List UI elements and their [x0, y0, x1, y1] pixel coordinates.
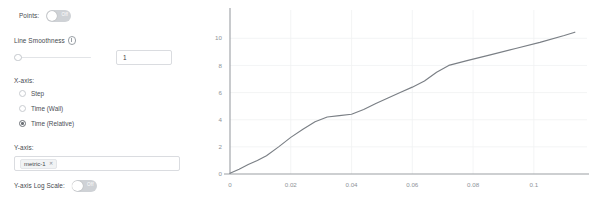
y-axis-label: Y-axis:	[14, 144, 34, 151]
y-log-scale-toggle-knob	[72, 181, 83, 192]
svg-text:0.06: 0.06	[406, 181, 419, 188]
slider-thumb[interactable]	[14, 54, 22, 62]
points-setting-row: Points: Off	[19, 10, 71, 22]
line-smoothness-slider[interactable]	[14, 53, 91, 63]
points-toggle-knob	[47, 11, 58, 22]
radio-time-relative-label: Time (Relative)	[31, 120, 74, 127]
radio-step-label: Step	[31, 90, 44, 97]
radio-step[interactable]	[19, 90, 26, 97]
radio-time-wall[interactable]	[19, 105, 26, 112]
x-axis-option-time-relative[interactable]: Time (Relative)	[19, 120, 74, 127]
line-smoothness-label-row: Line Smoothness	[14, 36, 76, 45]
line-smoothness-label: Line Smoothness	[14, 37, 65, 44]
scalar-chart[interactable]: 0246810 00.020.040.060.080.1	[188, 0, 591, 204]
x-axis-option-step[interactable]: Step	[19, 90, 44, 97]
points-toggle[interactable]: Off	[46, 10, 71, 22]
chart-axes	[224, 8, 589, 174]
chart-gridlines	[230, 10, 587, 174]
chart-y-tick-labels: 0246810	[215, 34, 222, 177]
chart-svg: 0246810 00.020.040.060.080.1	[188, 0, 591, 204]
chart-x-tick-labels: 00.020.040.060.080.1	[228, 181, 538, 188]
x-axis-option-time-wall[interactable]: Time (Wall)	[19, 105, 63, 112]
y-axis-metric-chip-label: metric-1	[24, 161, 46, 167]
svg-text:10: 10	[215, 34, 222, 41]
radio-time-relative[interactable]	[19, 120, 26, 127]
chart-settings-panel: Points: Off Line Smoothness 1 X-axis:	[0, 0, 188, 204]
y-log-scale-row: Y-axis Log Scale: Off	[14, 180, 97, 192]
y-log-scale-toggle[interactable]: Off	[72, 180, 97, 192]
svg-text:8: 8	[219, 62, 223, 69]
svg-text:6: 6	[219, 89, 223, 96]
close-icon[interactable]: ✕	[49, 161, 53, 166]
line-smoothness-input[interactable]: 1	[116, 50, 172, 65]
svg-text:0: 0	[219, 170, 223, 177]
y-axis-metric-select[interactable]: metric-1 ✕	[14, 156, 180, 171]
svg-text:0.08: 0.08	[467, 181, 480, 188]
line-smoothness-input-value: 1	[123, 54, 127, 61]
y-axis-label-row: Y-axis:	[14, 144, 34, 151]
tensorboard-scalars-panel: Points: Off Line Smoothness 1 X-axis:	[0, 0, 591, 204]
x-axis-label: X-axis:	[14, 77, 34, 84]
svg-text:0.04: 0.04	[346, 181, 359, 188]
svg-text:4: 4	[219, 116, 223, 123]
chart-series-group	[230, 32, 575, 173]
x-axis-label-row: X-axis:	[14, 77, 34, 84]
line-smoothness-controls-row: 1	[14, 50, 172, 65]
y-log-scale-toggle-state: Off	[87, 183, 94, 188]
y-axis-field-row: metric-1 ✕	[14, 156, 180, 171]
y-axis-metric-chip[interactable]: metric-1 ✕	[20, 159, 57, 169]
svg-text:0: 0	[228, 181, 232, 188]
radio-time-wall-label: Time (Wall)	[31, 105, 63, 112]
svg-text:2: 2	[219, 143, 223, 150]
points-toggle-state: Off	[61, 13, 68, 18]
y-log-scale-label: Y-axis Log Scale:	[14, 182, 65, 189]
slider-track	[18, 57, 91, 59]
svg-text:0.02: 0.02	[285, 181, 298, 188]
info-circle-icon[interactable]	[68, 36, 77, 45]
points-label: Points:	[19, 12, 39, 19]
svg-text:0.1: 0.1	[530, 181, 539, 188]
